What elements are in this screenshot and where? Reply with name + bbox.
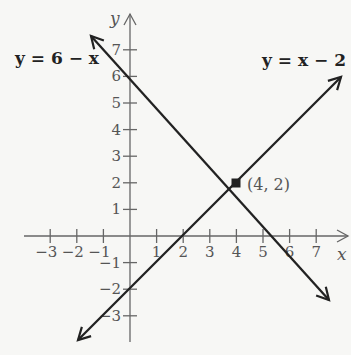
y-tick-label: −2 (99, 280, 121, 298)
x-tick-label: 3 (205, 243, 215, 261)
y-tick-label: −1 (99, 254, 121, 272)
intersection-label: (4, 2) (247, 175, 290, 194)
y-tick-label: 1 (111, 200, 121, 218)
x-tick-label: 7 (311, 243, 321, 261)
equation-label-y-equals-6-minus-x: y = 6 − x (14, 48, 100, 68)
x-axis-label: x (337, 244, 347, 264)
x-tick-label: 5 (258, 243, 268, 261)
x-tick-label: 2 (178, 243, 188, 261)
x-tick-label: −3 (35, 243, 57, 261)
x-tick-label: 4 (232, 243, 242, 261)
y-axis-ticks: −3−2−11234567 (99, 41, 137, 325)
y-tick-label: 4 (111, 121, 121, 139)
y-tick-label: 6 (111, 67, 121, 85)
y-tick-label: 7 (111, 41, 121, 59)
coordinate-plane-chart: −3−2−11234567 −3−2−11234567 x y (4, 2) y… (0, 0, 351, 355)
intersection-point (232, 179, 241, 188)
y-tick-label: 5 (111, 94, 121, 112)
y-tick-label: 3 (111, 147, 121, 165)
equation-label-y-equals-x-minus-2: y = x − 2 (261, 50, 346, 70)
y-axis-label: y (109, 8, 120, 28)
y-tick-label: 2 (111, 174, 121, 192)
x-tick-label: −2 (62, 243, 84, 261)
